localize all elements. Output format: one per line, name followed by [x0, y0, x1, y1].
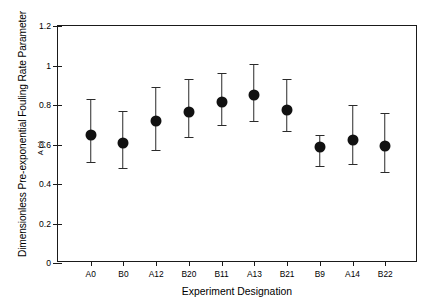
- y-axis-tick-label: 0.6: [39, 140, 51, 150]
- y-axis-tick-label: 1.2: [39, 21, 51, 31]
- data-point-marker: [249, 90, 260, 101]
- x-axis-tick: [189, 261, 190, 266]
- data-point-marker: [118, 137, 129, 148]
- plot-area: 00.20.40.60.811.2A0B0A12B20B11A13B21B9A1…: [57, 25, 417, 262]
- error-bar-cap-lower: [348, 164, 357, 165]
- y-axis-tick-inner: [58, 66, 62, 67]
- x-axis-title: Experiment Designation: [57, 286, 417, 297]
- data-point-marker: [347, 134, 358, 145]
- error-bar-cap-lower: [315, 166, 324, 167]
- data-point-marker: [314, 142, 325, 153]
- y-axis-tick-inner: [58, 224, 62, 225]
- error-bar-cap-upper: [250, 64, 259, 65]
- y-axis-tick-label: 0.2: [39, 219, 51, 229]
- y-axis-tick-label: 1: [46, 61, 51, 71]
- x-axis-tick-label: B21: [280, 269, 295, 279]
- data-point-marker: [380, 141, 391, 152]
- x-axis-tick-label: A14: [345, 269, 360, 279]
- error-bar-cap-lower: [283, 131, 292, 132]
- error-bar-cap-upper: [283, 79, 292, 80]
- x-axis-tick: [156, 261, 157, 266]
- x-axis-tick-label: A0: [86, 269, 96, 279]
- x-axis-tick: [287, 261, 288, 266]
- data-point-marker: [282, 104, 293, 115]
- y-axis-title-group: Dimensionless Pre-exponential Fouling Ra…: [0, 0, 26, 272]
- error-bar-cap-lower: [86, 162, 95, 163]
- data-point-marker: [151, 115, 162, 126]
- y-axis-title: Dimensionless Pre-exponential Fouling Ra…: [17, 0, 28, 268]
- y-axis-tick-label: 0: [46, 258, 51, 268]
- x-axis-tick: [123, 261, 124, 266]
- data-point-marker: [85, 129, 96, 140]
- x-axis-tick-label: B20: [181, 269, 196, 279]
- x-axis-tick: [385, 261, 386, 266]
- error-bar-cap-upper: [315, 135, 324, 136]
- error-bar-cap-upper: [217, 73, 226, 74]
- data-point-marker: [216, 97, 227, 108]
- chart-figure: Dimensionless Pre-exponential Fouling Ra…: [0, 0, 432, 306]
- y-axis-tick-inner: [58, 145, 62, 146]
- error-bar-cap-upper: [348, 105, 357, 106]
- error-bar-cap-upper: [152, 87, 161, 88]
- error-bar-cap-lower: [119, 168, 128, 169]
- error-bar-cap-lower: [184, 137, 193, 138]
- error-bar-cap-upper: [184, 79, 193, 80]
- error-bar-cap-lower: [250, 121, 259, 122]
- x-axis-tick: [254, 261, 255, 266]
- y-axis-tick-inner: [58, 263, 62, 264]
- error-bar-cap-lower: [152, 150, 161, 151]
- y-axis-tick-inner: [58, 26, 62, 27]
- y-axis-tick-inner: [58, 105, 62, 106]
- x-axis-tick-label: B9: [315, 269, 325, 279]
- x-axis-tick: [320, 261, 321, 266]
- y-axis-tick-label: 0.8: [39, 100, 51, 110]
- data-point-marker: [183, 106, 194, 117]
- error-bar-cap-upper: [119, 111, 128, 112]
- error-bar-cap-upper: [86, 99, 95, 100]
- y-axis-tick-label: 0.4: [39, 179, 51, 189]
- x-axis-tick: [353, 261, 354, 266]
- x-axis-tick-label: B22: [378, 269, 393, 279]
- error-bar-cap-lower: [217, 125, 226, 126]
- y-axis-tick-inner: [58, 184, 62, 185]
- x-axis-tick-label: B0: [118, 269, 128, 279]
- x-axis-tick: [91, 261, 92, 266]
- x-axis-tick-label: A13: [247, 269, 262, 279]
- x-axis-tick-label: A12: [149, 269, 164, 279]
- error-bar-cap-upper: [381, 113, 390, 114]
- error-bar-cap-lower: [381, 172, 390, 173]
- x-axis-tick: [222, 261, 223, 266]
- x-axis-tick-label: B11: [214, 269, 228, 279]
